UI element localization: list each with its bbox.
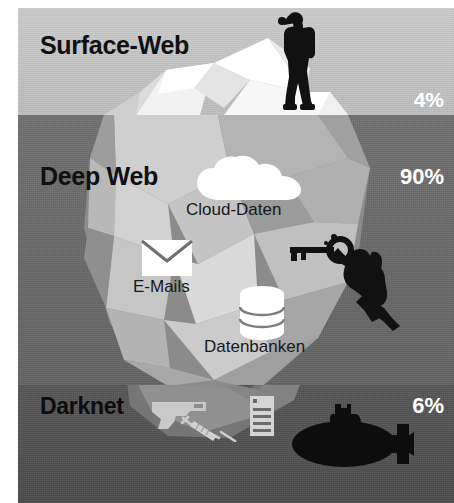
envelope-icon (141, 239, 193, 277)
surface-web-band (18, 8, 454, 115)
cloud-daten-label: Cloud-Daten (186, 200, 281, 220)
person-with-binoculars-icon (269, 11, 321, 111)
datenbanken-label: Datenbanken (204, 337, 305, 357)
deep-web-label: Deep Web (40, 162, 158, 191)
scuba-diver-with-key-icon (288, 234, 403, 334)
e-mails-label: E-Mails (133, 277, 190, 297)
surface-web-percent: 4% (414, 88, 444, 112)
document-list-icon (249, 395, 275, 437)
surface-web-label: Surface-Web (40, 31, 189, 60)
cloud-icon (196, 155, 302, 201)
syringe-icon (179, 414, 241, 442)
darknet-label: Darknet (40, 393, 124, 420)
deep-web-percent: 90% (400, 164, 444, 190)
darknet-percent: 6% (412, 393, 444, 419)
database-icon (238, 285, 286, 340)
submarine-icon (289, 402, 414, 470)
iceberg-infographic: Surface-Web 4% Deep Web 90% Darknet 6% C… (0, 0, 454, 503)
